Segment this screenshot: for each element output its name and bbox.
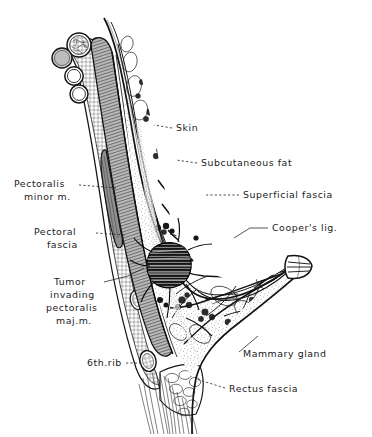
label-pectoral-fascia-line1: Pectoral [34,226,76,237]
label-6th-rib: 6th.rib [87,357,122,368]
label-rectus-fascia: Rectus fascia [229,383,298,394]
label-coopers-lig: Cooper's lig. [272,222,337,233]
label-superficial-fascia: Superficial fascia [243,189,333,200]
label-subcutaneous-fat: Subcutaneous fat [201,157,292,168]
label-mammary-gland: Mammary gland [243,348,327,359]
anatomical-figure: Skin Subcutaneous fat Superficial fascia… [0,0,372,437]
label-tumor-line3: pectoralis [46,302,97,313]
label-tumor-line1: Tumor [53,276,86,287]
label-pectoralis-minor-line1: Pectoralis [14,178,65,189]
breast-sagittal-section-drawing: Skin Subcutaneous fat Superficial fascia… [0,0,372,437]
label-skin: Skin [176,122,198,133]
label-tumor-line4: maj.m. [56,315,92,326]
label-pectoral-fascia-line2: fascia [47,239,78,250]
label-pectoralis-minor-line2: minor m. [24,191,71,202]
label-tumor-line2: invading [50,289,95,300]
